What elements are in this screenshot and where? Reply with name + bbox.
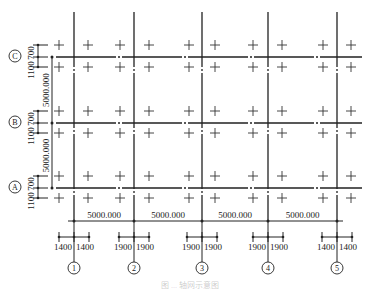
col-offset-right: 1400 <box>339 242 358 252</box>
dim-dot <box>51 122 54 125</box>
cross-mark <box>346 40 356 50</box>
cross-mark <box>83 171 93 181</box>
cross-mark <box>346 193 356 203</box>
cross-mark <box>144 171 154 181</box>
cross-mark <box>277 193 287 203</box>
offset-label-top: 700 <box>26 112 36 126</box>
axis-label-row: C <box>12 52 17 61</box>
col-spacing-label: 5000.000 <box>286 210 320 220</box>
offset-label-bottom: 1100 <box>26 127 36 145</box>
dim-dot <box>37 197 40 200</box>
col-spacing-label: 5000.000 <box>151 210 185 220</box>
dim-dot <box>336 236 339 239</box>
dim-dot <box>201 236 204 239</box>
col-spacing-label: 5000.000 <box>218 210 252 220</box>
offset-label-top: 700 <box>26 177 36 191</box>
structural-grid-drawing: 7001100C7001100B7001100A5000.0005000.000… <box>0 0 382 290</box>
cross-mark <box>210 62 220 72</box>
axis-label-row: A <box>12 183 18 192</box>
cross-mark <box>83 128 93 138</box>
offset-label-bottom: 1100 <box>26 192 36 210</box>
dim-dot <box>37 187 40 190</box>
cross-mark <box>54 40 64 50</box>
cross-mark <box>184 193 194 203</box>
cross-mark <box>115 40 125 50</box>
cross-mark <box>83 106 93 116</box>
cross-mark <box>210 40 220 50</box>
cross-mark <box>115 128 125 138</box>
cross-mark <box>277 171 287 181</box>
cross-mark <box>248 171 258 181</box>
axis-label-col: 5 <box>335 264 339 273</box>
cross-mark <box>54 106 64 116</box>
cross-mark <box>318 62 328 72</box>
col-offset-left: 1400 <box>54 242 73 252</box>
col-offset-right: 1900 <box>136 242 155 252</box>
col-offset-left: 1900 <box>182 242 201 252</box>
dim-dot <box>37 66 40 69</box>
dim-dot <box>252 236 255 239</box>
cross-mark <box>210 171 220 181</box>
col-offset-left: 1400 <box>317 242 336 252</box>
cross-mark <box>210 106 220 116</box>
offset-label-bottom: 1100 <box>26 61 36 79</box>
cross-mark <box>144 193 154 203</box>
cross-mark <box>277 40 287 50</box>
cross-mark <box>248 128 258 138</box>
cross-mark <box>184 62 194 72</box>
cross-mark <box>54 193 64 203</box>
dim-dot <box>37 122 40 125</box>
cross-mark <box>277 128 287 138</box>
dim-dot <box>37 175 40 178</box>
row-spacing-label: 5000.000 <box>41 138 51 172</box>
cross-mark <box>248 106 258 116</box>
cross-mark <box>346 128 356 138</box>
cross-mark <box>277 62 287 72</box>
dim-dot <box>133 236 136 239</box>
dim-dot <box>321 236 324 239</box>
cross-mark <box>144 106 154 116</box>
col-spacing-label: 5000.000 <box>87 210 121 220</box>
dim-dot <box>37 44 40 47</box>
cross-mark <box>83 193 93 203</box>
cross-mark <box>144 40 154 50</box>
cross-mark <box>210 193 220 203</box>
cross-mark <box>346 106 356 116</box>
axis-label-col: 4 <box>266 264 270 273</box>
dim-dot <box>37 56 40 59</box>
cross-mark <box>184 40 194 50</box>
col-offset-right: 1900 <box>270 242 289 252</box>
cross-mark <box>115 106 125 116</box>
cross-mark <box>318 40 328 50</box>
cross-mark <box>144 62 154 72</box>
axis-label-col: 2 <box>132 264 136 273</box>
dim-dot <box>73 236 76 239</box>
cross-mark <box>248 193 258 203</box>
cross-mark <box>318 106 328 116</box>
col-offset-right: 1400 <box>76 242 95 252</box>
dim-dot <box>88 236 91 239</box>
dim-dot <box>148 236 151 239</box>
offset-label-top: 700 <box>26 46 36 60</box>
cross-mark <box>184 171 194 181</box>
cross-mark <box>346 62 356 72</box>
axis-label-row: B <box>12 118 17 127</box>
col-offset-left: 1900 <box>114 242 133 252</box>
figure-caption: 图 ... 轴网示意图 <box>161 280 219 290</box>
cross-mark <box>277 106 287 116</box>
cross-mark <box>115 171 125 181</box>
cross-mark <box>115 62 125 72</box>
dim-dot <box>37 110 40 113</box>
cross-mark <box>54 62 64 72</box>
cross-mark <box>54 171 64 181</box>
row-spacing-label: 5000.000 <box>41 73 51 107</box>
cross-mark <box>248 62 258 72</box>
axis-label-col: 3 <box>200 264 204 273</box>
col-offset-left: 1900 <box>248 242 267 252</box>
cross-mark <box>54 128 64 138</box>
cross-mark <box>144 128 154 138</box>
cross-mark <box>210 128 220 138</box>
dim-dot <box>216 236 219 239</box>
cross-mark <box>318 128 328 138</box>
cross-mark <box>248 40 258 50</box>
